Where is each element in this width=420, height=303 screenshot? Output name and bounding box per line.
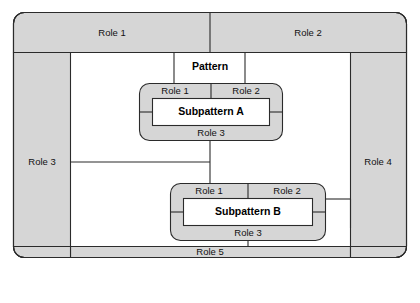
pattern-center-label: Pattern bbox=[192, 60, 228, 72]
subpattern-a-center-label: Subpattern A bbox=[178, 105, 244, 117]
outer-band-right bbox=[351, 53, 407, 247]
outer-corner-bottom-left bbox=[14, 247, 71, 258]
pattern-composition-diagram: Role 1 Role 2 Role 3 Role 4 Role 5 Patte… bbox=[0, 0, 420, 303]
subpattern-a-role-3-label: Role 3 bbox=[197, 127, 224, 138]
subpattern-b-role-3-label: Role 3 bbox=[234, 227, 261, 238]
outer-role-1-label: Role 1 bbox=[98, 27, 125, 38]
subpattern-a-group: Role 1 Role 2 Subpattern A Role 3 bbox=[140, 84, 283, 141]
outer-role-2-label: Role 2 bbox=[294, 27, 321, 38]
subpattern-b-role-1-label: Role 1 bbox=[195, 185, 222, 196]
subpattern-a-role-1-label: Role 1 bbox=[161, 85, 188, 96]
pattern-diagram-canvas: Role 1 Role 2 Role 3 Role 4 Role 5 Patte… bbox=[0, 0, 420, 303]
subpattern-b-group: Role 1 Role 2 Subpattern B Role 3 bbox=[171, 184, 326, 241]
outer-role-5-label: Role 5 bbox=[196, 246, 223, 257]
outer-role-4-label: Role 4 bbox=[364, 156, 391, 167]
outer-role-3-label: Role 3 bbox=[28, 156, 55, 167]
subpattern-b-role-2-label: Role 2 bbox=[273, 185, 300, 196]
outer-corner-bottom-right bbox=[351, 247, 407, 258]
subpattern-a-role-2-label: Role 2 bbox=[232, 85, 259, 96]
subpattern-b-center-label: Subpattern B bbox=[215, 205, 281, 217]
outer-band-left bbox=[14, 53, 71, 247]
